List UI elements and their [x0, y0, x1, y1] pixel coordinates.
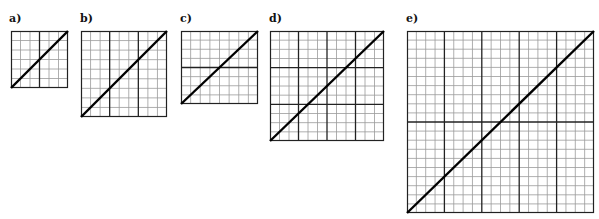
panel-label-b: b) [80, 12, 93, 25]
panel-label-e: e) [406, 12, 418, 25]
panel-label-c: c) [180, 12, 192, 25]
panel-label-d: d) [269, 12, 282, 25]
grid-panel-b [81, 31, 167, 117]
grid-panel-a [11, 31, 68, 88]
grid-panel-d [270, 31, 384, 141]
panel-label-a: a) [9, 12, 21, 25]
diagonal-line [81, 31, 167, 117]
grid-panel-c [181, 31, 258, 104]
grid-panel-e [407, 31, 594, 213]
